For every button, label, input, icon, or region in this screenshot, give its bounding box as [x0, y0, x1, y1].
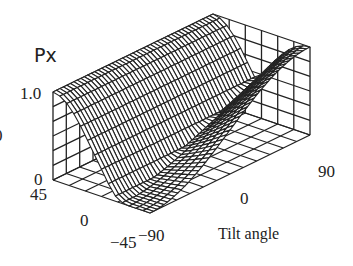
- angle-tick-0: 0: [80, 212, 89, 229]
- angle-tick-45: 45: [30, 186, 47, 203]
- surface-mesh: [53, 14, 310, 213]
- tilt-tick-0: 0: [240, 190, 249, 207]
- z-tick-top: 1.0: [20, 85, 41, 102]
- z-tick-clipped: 0: [0, 127, 3, 144]
- surface-plot: [0, 0, 353, 266]
- angle-tick-minus45: −45: [110, 234, 137, 251]
- z-axis-title: Px: [34, 46, 57, 65]
- tilt-tick-minus90: −90: [138, 227, 165, 244]
- tilt-axis-title: Tilt angle: [218, 226, 279, 242]
- tilt-tick-90: 90: [318, 163, 335, 180]
